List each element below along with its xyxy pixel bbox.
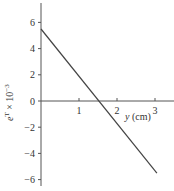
axes xyxy=(41,3,174,186)
y-tick-label: 4 xyxy=(30,43,35,54)
y-axis-label: eT × 10−3 xyxy=(3,84,15,121)
x-tick-label: 1 xyxy=(77,105,82,116)
y-tick-label: −2 xyxy=(24,122,35,133)
x-tick-label: 2 xyxy=(115,105,120,116)
y-tick-label: 6 xyxy=(30,17,35,28)
y-tick-label: 2 xyxy=(30,69,35,80)
x-tick-label: 3 xyxy=(153,105,158,116)
y-tick-label: 0 xyxy=(30,96,35,107)
x-axis-unit: (cm) xyxy=(129,111,150,123)
y-tick-label: −6 xyxy=(24,174,35,185)
x-axis-label: y (cm) xyxy=(124,111,151,123)
y-tick-label: −4 xyxy=(24,148,35,159)
chart: 6420−2−4−6123 y (cm) eT × 10−3 xyxy=(0,0,174,191)
